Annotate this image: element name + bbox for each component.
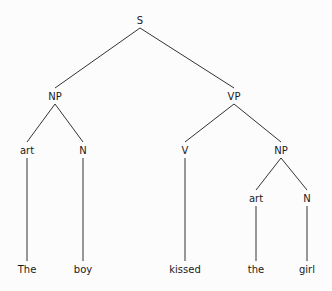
leaf-word-boy: boy: [74, 264, 92, 275]
leaf-word-the: the: [248, 264, 264, 275]
syntax-tree-diagram: S NP VP art N V NP art N The boy kissed …: [0, 0, 332, 291]
tree-edge: [281, 158, 307, 190]
tree-edge: [140, 28, 234, 88]
tree-edge: [55, 104, 83, 142]
node-np-object: NP: [274, 145, 288, 156]
leaf-word-the-capital: The: [18, 264, 37, 275]
node-art-subject: art: [20, 145, 34, 156]
node-s: S: [137, 15, 143, 26]
node-art-object: art: [249, 193, 263, 204]
tree-edge: [256, 158, 281, 190]
tree-edge: [27, 104, 55, 142]
leaf-word-kissed: kissed: [169, 264, 201, 275]
node-n-object: N: [303, 193, 310, 204]
node-n-subject: N: [79, 145, 86, 156]
tree-edge: [55, 28, 140, 88]
node-vp: VP: [228, 91, 241, 102]
node-np-subject: NP: [48, 91, 62, 102]
tree-edge: [234, 104, 281, 142]
node-v: V: [182, 145, 189, 156]
tree-edge: [185, 104, 234, 142]
leaf-word-girl: girl: [299, 264, 315, 275]
